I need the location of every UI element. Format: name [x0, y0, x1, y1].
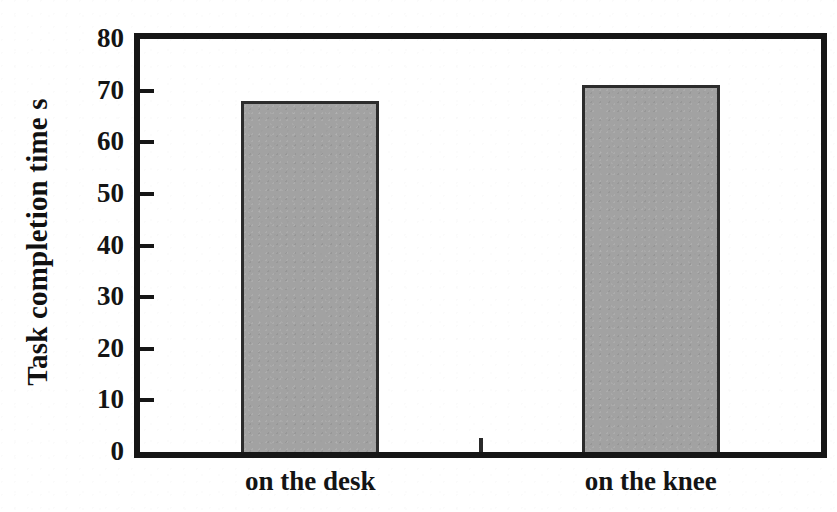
y-axis-tick-label: 70 — [60, 77, 124, 104]
plot-area — [134, 33, 827, 458]
y-axis-tick-label: 80 — [60, 25, 124, 52]
y-axis-tick-label: 40 — [60, 232, 124, 259]
y-axis-tick-label: 50 — [60, 180, 124, 207]
y-axis-tick-mark — [140, 244, 154, 248]
y-axis-tick-label: 30 — [60, 283, 124, 310]
y-axis-tick-mark — [140, 295, 154, 299]
y-axis-tick-mark — [140, 192, 154, 196]
bar — [241, 101, 379, 452]
y-axis-tick-label: 0 — [60, 438, 124, 465]
y-axis-tick-labels: 01020304050607080 — [56, 0, 124, 512]
x-axis-tick-label: on the knee — [501, 466, 801, 496]
y-axis-tick-label: 10 — [60, 386, 124, 413]
x-axis-center-tick-mark — [479, 438, 483, 452]
plot-inner — [140, 39, 821, 452]
y-axis-title: Task completion time s — [20, 22, 54, 462]
y-axis-tick-mark — [140, 398, 154, 402]
bar — [582, 85, 720, 452]
y-axis-tick-mark — [140, 140, 154, 144]
y-axis-tick-label: 60 — [60, 128, 124, 155]
y-axis-tick-mark — [140, 89, 154, 93]
y-axis-tick-mark — [140, 347, 154, 351]
x-axis-tick-label: on the desk — [160, 466, 460, 496]
bar-chart-figure: Task completion time s 01020304050607080… — [0, 0, 837, 512]
y-axis-tick-label: 20 — [60, 335, 124, 362]
